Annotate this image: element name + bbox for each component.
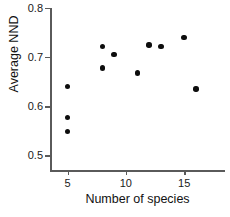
data-point (146, 42, 151, 47)
data-point (100, 44, 105, 49)
data-point (193, 86, 198, 91)
y-tick-label: 0.6 (28, 101, 43, 112)
data-point (158, 44, 163, 49)
y-axis-title: Average NND (7, 0, 21, 114)
y-tick-label: 0.5 (28, 150, 43, 161)
x-tick-label: 10 (120, 178, 132, 189)
data-point (181, 35, 186, 40)
data-point (65, 84, 70, 89)
y-tick-mark (45, 106, 50, 107)
data-point (111, 52, 116, 57)
x-tick-mark (68, 170, 69, 175)
y-axis-line (50, 8, 52, 170)
data-point (65, 115, 70, 120)
x-tick-label: 5 (64, 178, 70, 189)
data-point (135, 70, 140, 75)
scatter-chart-figure: 0.50.60.70.8 51015 Number of species Ave… (0, 0, 230, 217)
y-tick-label: 0.7 (28, 52, 43, 63)
x-tick-label: 15 (178, 178, 190, 189)
x-axis-title: Number of species (50, 192, 225, 206)
x-tick-mark (126, 170, 127, 175)
x-axis-line (50, 170, 225, 172)
y-tick-mark (45, 57, 50, 58)
x-tick-mark (184, 170, 185, 175)
y-tick-mark (45, 8, 50, 9)
y-tick-mark (45, 155, 50, 156)
data-point (100, 65, 105, 70)
y-tick-label: 0.8 (28, 3, 43, 14)
data-point (65, 129, 70, 134)
plot-area: 0.50.60.70.8 51015 (50, 8, 225, 170)
